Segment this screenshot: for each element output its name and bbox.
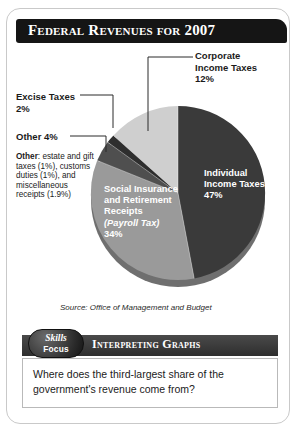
pie-label-individual-value: 47% bbox=[204, 190, 265, 201]
pie-label-social-value: 34% bbox=[104, 229, 178, 240]
question-box: Where does the third-largest share of th… bbox=[22, 358, 278, 408]
pie-label-social-line2: and Retirement bbox=[104, 195, 178, 206]
chart-source: Source: Office of Management and Budget bbox=[60, 303, 212, 312]
callout-corporate-line1: Corporate bbox=[195, 50, 257, 62]
skills-badge-line2: Focus bbox=[29, 344, 83, 354]
pie-label-individual-line1: Individual bbox=[204, 168, 265, 179]
other-footnote-label: Other bbox=[16, 152, 38, 161]
pie-label-social-insurance: Social Insurance and Retirement Receipts… bbox=[104, 184, 178, 240]
skills-focus-badge: Skills Focus bbox=[28, 329, 84, 358]
pie-label-individual-income-taxes: Individual Income Taxes 47% bbox=[204, 168, 265, 202]
pie-label-individual-line2: Income Taxes bbox=[204, 179, 265, 190]
pie-label-social-line3: Receipts bbox=[104, 206, 178, 217]
callout-other-line1: Other 4% bbox=[16, 131, 58, 143]
question-text: Where does the third-largest share of th… bbox=[33, 367, 269, 397]
callout-other: Other 4% bbox=[16, 131, 58, 143]
other-footnote: Other: estate and gift taxes (1%), custo… bbox=[16, 152, 94, 200]
callout-corporate-line2: Income Taxes bbox=[195, 62, 257, 74]
leader-line-other bbox=[70, 136, 106, 152]
callout-excise-taxes: Excise Taxes 2% bbox=[16, 91, 75, 114]
callout-corporate-income-taxes: Corporate Income Taxes 12% bbox=[195, 50, 257, 85]
callout-excise-value: 2% bbox=[16, 103, 75, 115]
pie-label-social-line4: (Payroll Tax) bbox=[104, 218, 178, 229]
callout-excise-line1: Excise Taxes bbox=[16, 91, 75, 103]
skills-focus-title: Interpreting Graphs bbox=[92, 337, 201, 352]
skills-badge-line1: Skills bbox=[29, 333, 83, 343]
pie-label-social-line1: Social Insurance bbox=[104, 184, 178, 195]
callout-corporate-value: 12% bbox=[195, 73, 257, 85]
leader-line-excise bbox=[80, 95, 113, 128]
